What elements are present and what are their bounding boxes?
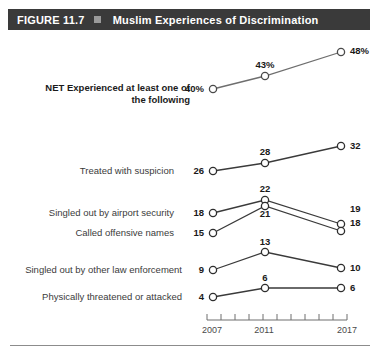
value-net-2017: 48%	[350, 45, 389, 56]
value-names-2007: 15	[176, 227, 204, 238]
series-label-suspicion: Treated with suspicion	[28, 165, 174, 177]
value-threatened-2017: 6	[350, 282, 384, 293]
x-axis	[207, 314, 347, 320]
value-lawenforcement-2011: 13	[248, 236, 282, 247]
value-lawenforcement-2017: 10	[350, 262, 384, 273]
value-airport-2017: 19	[350, 203, 384, 214]
series-label-offensive-names: Called offensive names	[36, 227, 174, 239]
axis-label-2007: 2007	[190, 325, 234, 335]
value-names-2011: 21	[248, 208, 282, 219]
value-threatened-2011: 6	[248, 272, 282, 283]
axis-label-2011: 2011	[242, 325, 286, 335]
series-law-enforcement	[209, 248, 344, 273]
value-lawenforcement-2007: 9	[182, 264, 204, 275]
series-net	[209, 48, 344, 92]
value-suspicion-2007: 26	[176, 165, 204, 176]
figure-container: FIGURE 11.7 Muslim Experiences of Discri…	[0, 0, 389, 364]
series-label-airport-security: Singled out by airport security	[6, 207, 174, 219]
axis-label-2017: 2017	[325, 325, 369, 335]
series-threatened	[209, 284, 344, 300]
value-airport-2007: 18	[176, 207, 204, 218]
value-suspicion-2017: 32	[350, 140, 384, 151]
slope-chart-plot	[0, 0, 389, 364]
value-airport-2011: 22	[248, 183, 282, 194]
series-label-threatened: Physically threatened or attacked	[14, 291, 182, 303]
series-label-law-enforcement: Singled out by other law enforcement	[0, 264, 182, 276]
value-suspicion-2011: 28	[248, 146, 282, 157]
value-net-2007: 40%	[168, 83, 204, 94]
value-threatened-2007: 4	[182, 291, 204, 302]
value-net-2011: 43%	[245, 59, 285, 70]
footer-divider	[10, 345, 370, 346]
value-names-2017: 18	[350, 217, 384, 228]
